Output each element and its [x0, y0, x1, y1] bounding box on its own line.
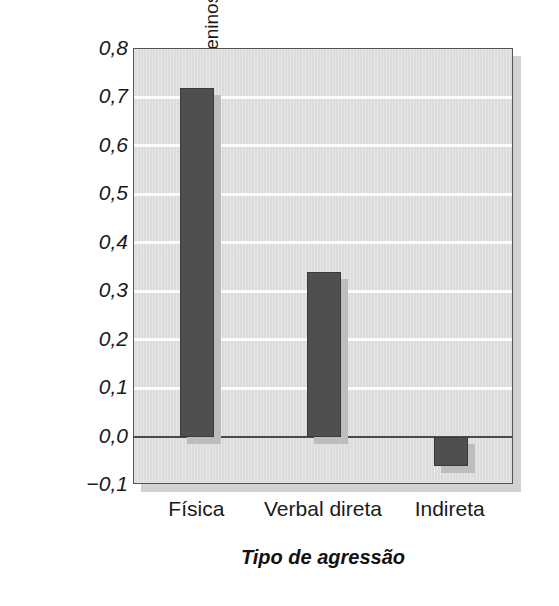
y-axis-tick-label: 0,7: [58, 85, 128, 106]
x-axis-tick-label: Verbal direta: [260, 495, 387, 523]
x-axis-title: Tipo de agressão: [133, 546, 513, 569]
plot-area: [133, 48, 513, 484]
bar: [307, 272, 341, 437]
bar: [180, 88, 214, 437]
x-axis-tick-label: Física: [133, 495, 260, 523]
x-axis-tick-labels: FísicaVerbal diretaIndireta: [133, 495, 513, 529]
y-axis-tick-label: 0,4: [58, 231, 128, 252]
y-axis-tick-label: −0,1: [58, 473, 128, 494]
y-axis-tick-label: 0,6: [58, 134, 128, 155]
y-axis-tick-label: 0,2: [58, 328, 128, 349]
y-axis-tick-label: 0,8: [58, 37, 128, 58]
y-axis-tick-label: 0,1: [58, 376, 128, 397]
x-axis-tick-label: Indireta: [386, 495, 513, 523]
y-axis-tick-labels: 0,80,70,60,50,40,30,20,10,0−0,1: [58, 0, 128, 606]
chart-figure: Tamanho do efeito (meninos meninas) 0,80…: [0, 0, 559, 606]
bar: [434, 437, 468, 466]
y-axis-tick-label: 0,5: [58, 182, 128, 203]
y-axis-tick-label: 0,0: [58, 425, 128, 446]
y-axis-tick-label: 0,3: [58, 279, 128, 300]
